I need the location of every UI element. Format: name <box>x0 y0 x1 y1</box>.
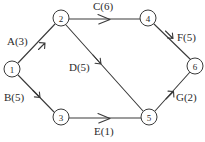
edge-label-a: A(3) <box>7 36 28 47</box>
edge-c-2-to-4 <box>69 15 140 25</box>
node-4[interactable]: 4 <box>140 10 156 26</box>
edge-f-arrowhead <box>166 31 174 39</box>
edge-label-e: E(1) <box>94 126 114 137</box>
edge-g-arrowhead <box>166 91 174 99</box>
node-4-label: 4 <box>146 14 151 24</box>
edge-b-arrowhead <box>33 91 40 98</box>
node-5[interactable]: 5 <box>141 109 157 125</box>
node-6[interactable]: 6 <box>187 58 203 74</box>
edges-group <box>18 15 191 124</box>
node-6-label: 6 <box>193 62 198 72</box>
edge-d-arrowhead <box>93 55 101 64</box>
edge-label-f: F(5) <box>177 32 196 43</box>
edge-label-b: B(5) <box>4 92 24 103</box>
edge-a-arrowhead <box>39 43 46 50</box>
node-5-label: 5 <box>147 113 152 123</box>
node-1[interactable]: 1 <box>4 61 20 77</box>
node-2-label: 2 <box>59 14 64 24</box>
graph-canvas: 1 2 3 4 5 6 <box>0 0 205 142</box>
edge-label-d: D(5) <box>69 62 90 73</box>
aoe-network-diagram: 1 2 3 4 5 6 A(3) <box>0 0 205 142</box>
node-2[interactable]: 2 <box>53 10 69 26</box>
node-3[interactable]: 3 <box>53 109 69 125</box>
node-1-label: 1 <box>10 65 15 75</box>
edge-label-c: C(6) <box>93 1 113 12</box>
edge-e-3-to-5 <box>69 114 141 124</box>
node-3-label: 3 <box>59 113 64 123</box>
edge-label-g: G(2) <box>176 92 197 103</box>
